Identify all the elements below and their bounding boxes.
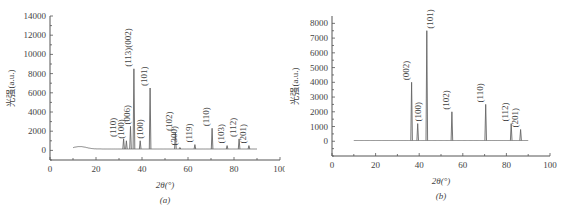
y-tick-label: 5000 [310, 63, 329, 73]
baseline-trace [73, 147, 257, 149]
y-tick-label: 4000 [310, 77, 329, 87]
peak-label: (110) [475, 83, 485, 102]
peak-label: (101) [139, 67, 149, 87]
peak-label: (100) [135, 119, 145, 139]
y-tick-label: 8000 [310, 18, 329, 28]
y-tick-label: 3000 [310, 92, 329, 102]
peak-label: (300) [169, 126, 179, 146]
y-tick-label: 12000 [24, 30, 47, 40]
y-tick-label: 7000 [310, 33, 329, 43]
x-tick-label: 80 [502, 160, 512, 170]
y-tick-label: 2000 [310, 107, 329, 117]
x-tick-label: 60 [458, 160, 468, 170]
peak [226, 146, 228, 149]
peak-label: (201) [238, 124, 248, 144]
chart-panel-b: 0100020003000400050006000700080000204060… [285, 0, 569, 215]
chart-panel-a: 0200040006000800010000120001400002040608… [0, 0, 285, 215]
x-tick-label: 20 [371, 160, 381, 170]
x-tick-label: 40 [415, 160, 425, 170]
peak [248, 146, 250, 149]
y-tick-label: 4000 [28, 107, 47, 117]
y-tick-label: 8000 [28, 69, 47, 79]
peak-label: (112) [228, 118, 238, 137]
peak-label: (119) [184, 123, 194, 142]
xrd-chart-b: 0100020003000400050006000700080000204060… [285, 0, 569, 215]
y-tick-label: 6000 [310, 48, 329, 58]
y-tick-label: 1000 [310, 122, 329, 132]
peak [211, 128, 213, 149]
peak-label: (002) [401, 61, 411, 81]
y-axis-label: 光强(a.u.) [5, 70, 16, 107]
peak [426, 31, 428, 141]
peak [139, 141, 141, 149]
y-tick-label: 6000 [28, 88, 47, 98]
x-tick-label: 20 [92, 164, 102, 174]
peak-label: (101) [425, 9, 435, 29]
y-tick-label: 14000 [24, 11, 47, 21]
xrd-chart-a: 0200040006000800010000120001400002040608… [0, 0, 285, 215]
peak [149, 88, 151, 149]
peak-label: (100) [413, 102, 423, 122]
x-axis-label: 2θ(°) [432, 176, 451, 186]
x-tick-label: 0 [330, 160, 335, 170]
peak [130, 126, 132, 149]
peak-label: (113)(002) [123, 28, 133, 67]
x-tick-label: 80 [230, 164, 240, 174]
peak [520, 130, 522, 141]
peak [194, 145, 196, 149]
y-tick-label: 2000 [28, 126, 47, 136]
peak [126, 141, 128, 149]
peak-label: (201) [510, 108, 520, 128]
peak [485, 104, 487, 140]
y-tick-label: 0 [324, 136, 329, 146]
peak [123, 139, 125, 149]
y-tick-label: 10000 [24, 49, 47, 59]
x-axis-label: 2θ(°) [156, 180, 175, 190]
peak [417, 124, 419, 141]
peak [451, 112, 453, 141]
x-tick-label: 0 [48, 164, 53, 174]
peak-label: (110) [201, 107, 211, 126]
y-tick-label: 0 [42, 145, 47, 155]
peak-label: (006) [122, 105, 132, 125]
x-tick-label: 100 [273, 164, 285, 174]
x-tick-label: 60 [184, 164, 194, 174]
x-tick-label: 100 [543, 160, 557, 170]
peak-label: (102) [441, 90, 451, 110]
peak-label: (103) [216, 124, 226, 144]
y-axis-label: 光强(a.u.) [289, 68, 300, 105]
panel-label: (a) [160, 195, 171, 205]
panel-label: (b) [436, 191, 447, 201]
x-tick-label: 40 [138, 164, 148, 174]
